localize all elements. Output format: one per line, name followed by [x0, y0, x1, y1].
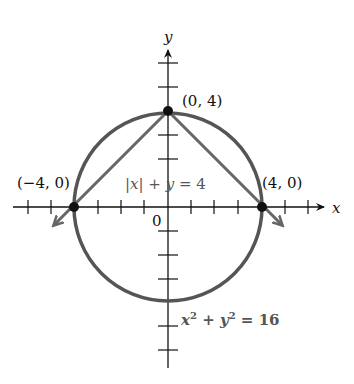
- y-axis-label: y: [163, 28, 173, 46]
- y-axis: [158, 50, 178, 368]
- point-0-4: [163, 106, 173, 116]
- abs-equation-label: |x| + y = 4: [125, 175, 206, 193]
- graph: y x 0 (0, 4) (−4, 0) (4, 0) |x| + y = 4 …: [0, 0, 354, 384]
- point-label-0-4: (0, 4): [182, 92, 222, 110]
- circle-equation-label: x2 + y2 = 16: [180, 310, 280, 329]
- point-neg4-0: [69, 202, 79, 212]
- point-label-4-0: (4, 0): [262, 174, 302, 192]
- point-4-0: [257, 202, 267, 212]
- x-axis-label: x: [332, 199, 341, 217]
- point-label-neg4-0: (−4, 0): [17, 174, 70, 192]
- origin-label: 0: [152, 212, 162, 230]
